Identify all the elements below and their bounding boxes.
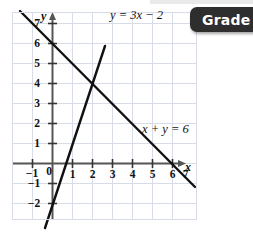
grade-badge[interactable]: Grade B [190,7,253,32]
y-tick-label-minus-2: −2 [24,197,44,209]
grade-badge-label: Grade B [202,12,253,28]
y-tick-label-2: 2 [30,117,44,129]
x-tick-label-4: 4 [126,168,139,180]
x-tick-label-1: 1 [66,168,79,180]
y-tick-label-7: 7 [30,17,44,29]
x-tick-label-2: 2 [86,168,99,180]
y-tick-label-1: 1 [30,137,44,149]
coordinate-graph: y x 7 6 5 4 3 2 1 −1 −2 −1 0 1 2 3 4 5 6… [0,0,253,240]
y-tick-label-5: 5 [30,57,44,69]
x-tick-label-7: 7 [179,168,192,180]
equation-label-line2: x + y = 6 [142,122,189,137]
x-tick-label-6: 6 [166,168,179,180]
x-tick-label-minus-1: −1 [21,167,43,179]
figure-canvas: y x 7 6 5 4 3 2 1 −1 −2 −1 0 1 2 3 4 5 6… [0,0,253,240]
y-tick-label-3: 3 [30,97,44,109]
y-tick-label-6: 6 [30,37,44,49]
x-tick-label-0: 0 [43,165,55,177]
equation-label-line1: y = 3x − 2 [110,8,163,23]
x-tick-label-3: 3 [106,168,119,180]
x-tick-label-5: 5 [146,168,159,180]
y-tick-label-4: 4 [30,77,44,89]
